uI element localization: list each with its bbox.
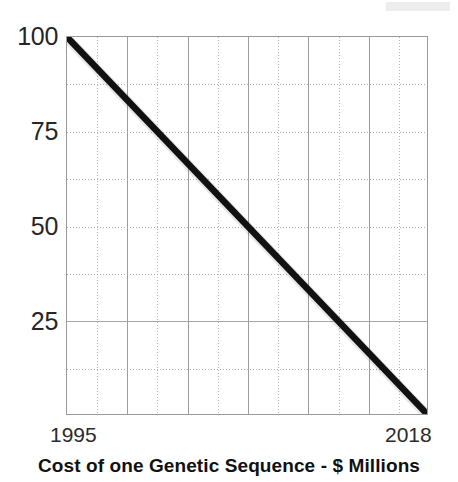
chart-figure: 100 75 50 25 1995 2018 Cost of one Genet… bbox=[0, 0, 458, 482]
x-tick-label-start: 1995 bbox=[50, 424, 97, 446]
y-tick-label-25: 25 bbox=[0, 309, 58, 334]
y-axis-tick-labels: 100 75 50 25 bbox=[0, 0, 458, 482]
y-tick-label-100: 100 bbox=[0, 24, 58, 49]
y-tick-label-50: 50 bbox=[0, 214, 58, 239]
y-tick-label-75: 75 bbox=[0, 119, 58, 144]
x-tick-label-end: 2018 bbox=[385, 424, 432, 446]
chart-title: Cost of one Genetic Sequence - $ Million… bbox=[0, 455, 458, 477]
